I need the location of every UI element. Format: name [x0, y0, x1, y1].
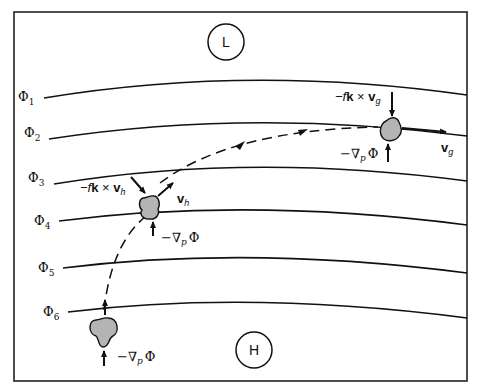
contour-label-2: Φ2	[24, 125, 40, 143]
parcel-middle-shape	[140, 196, 160, 219]
contour-line-5	[63, 258, 467, 273]
parcel-initial: −∇pΦ	[90, 300, 155, 366]
geostrophic-adjustment-diagram: L H Φ1 Φ2 Φ3 Φ4 Φ5 Φ6 −∇pΦ	[0, 0, 477, 387]
contour-label-5: Φ5	[38, 260, 55, 278]
contour-line-4	[59, 210, 467, 225]
velocity-arrow-middle	[158, 183, 173, 196]
trajectory-arrowheads	[235, 129, 308, 150]
parcel-initial-shape	[90, 318, 117, 347]
coriolis-label-middle: −fk × vh	[80, 180, 126, 197]
coriolis-arrow-middle	[131, 177, 145, 193]
pgf-label-middle: −∇pΦ	[161, 230, 199, 247]
low-pressure-center: L	[208, 24, 244, 60]
low-label: L	[222, 34, 230, 50]
velocity-label-final: vg	[441, 140, 453, 157]
velocity-label-middle: vh	[177, 191, 189, 208]
coriolis-label-final: −fk × vg	[335, 89, 381, 106]
contour-label-4: Φ4	[34, 213, 51, 231]
contour-label-3: Φ3	[28, 170, 45, 188]
contour-line-2	[49, 123, 467, 139]
pgf-label-initial: −∇pΦ	[117, 349, 155, 366]
high-label: H	[249, 342, 259, 358]
diagram-frame	[14, 12, 467, 381]
contour-label-6: Φ6	[43, 304, 60, 322]
contour-line-6	[68, 302, 467, 318]
geopotential-contours	[44, 80, 467, 318]
parcel-final-shape	[380, 118, 401, 141]
parcel-middle: −fk × vh vh −∇pΦ	[80, 177, 199, 247]
contour-labels: Φ1 Φ2 Φ3 Φ4 Φ5 Φ6	[18, 89, 60, 322]
contour-line-1	[44, 80, 467, 98]
high-pressure-center: H	[236, 332, 272, 368]
trajectory-arrowhead-1	[235, 141, 245, 150]
pgf-label-final: −∇pΦ	[340, 146, 378, 163]
contour-label-1: Φ1	[18, 89, 34, 107]
trajectory-arrowhead-2	[298, 129, 308, 136]
